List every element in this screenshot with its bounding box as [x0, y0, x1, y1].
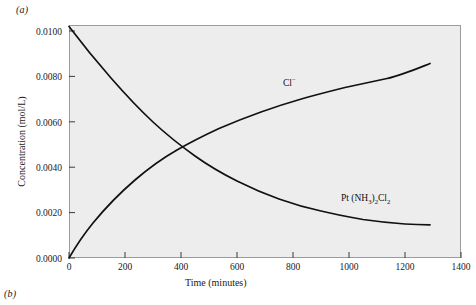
figure-container: (a) (b) 0.0000 0.0020 0.0040 0.0060 0.00…	[0, 0, 476, 305]
x-axis-ticks	[69, 252, 461, 258]
y-axis-ticks	[69, 31, 75, 258]
curve-complex	[69, 27, 430, 225]
chart-svg	[0, 0, 476, 305]
